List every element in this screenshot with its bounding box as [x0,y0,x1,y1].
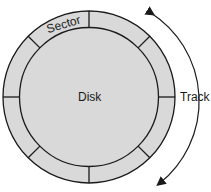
disk-diagram: Sector Disk Track [0,0,211,192]
track-label: Track [180,90,211,104]
disk-label: Disk [78,90,102,104]
